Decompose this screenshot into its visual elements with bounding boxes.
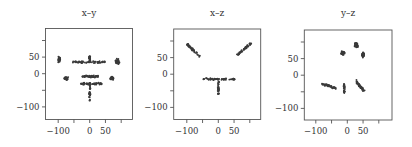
data-point (362, 57, 364, 59)
data-points (57, 55, 120, 101)
data-point (217, 84, 219, 86)
data-point (363, 54, 365, 56)
data-point (80, 83, 82, 85)
data-point (360, 87, 362, 89)
data-point (343, 85, 345, 87)
y-tick-label: −100 (16, 102, 39, 112)
data-point (329, 85, 331, 87)
data-point (214, 78, 216, 80)
data-point (354, 43, 356, 45)
y-tick-label: −100 (275, 103, 298, 113)
data-point (187, 45, 189, 47)
data-point (192, 48, 194, 50)
data-point (198, 56, 200, 58)
data-point (221, 78, 223, 80)
data-point (342, 54, 344, 56)
data-point (82, 75, 84, 77)
panel-title: x–y (82, 8, 98, 18)
data-point (89, 59, 91, 61)
data-point (243, 49, 245, 51)
data-points (321, 42, 365, 94)
plot-frame (46, 29, 133, 120)
data-point (343, 89, 345, 91)
data-point (57, 61, 59, 63)
data-point (229, 78, 231, 80)
data-point (217, 93, 219, 95)
data-point (333, 86, 335, 88)
data-point (237, 53, 239, 55)
y-tick-label: 50 (29, 52, 40, 62)
data-point (101, 61, 103, 63)
y-tick-label: −100 (144, 102, 167, 112)
data-point (89, 57, 91, 59)
data-point (85, 62, 87, 64)
plot-frame (174, 29, 261, 120)
data-point (357, 46, 359, 48)
data-point (356, 79, 358, 81)
data-point (240, 51, 242, 53)
data-point (332, 87, 334, 89)
data-point (109, 77, 111, 79)
x-tick-label: 0 (216, 126, 221, 136)
figure: x–y−100050−100050 x–z−100050−100050 y–z−… (0, 0, 412, 147)
x-tick-label: −100 (175, 126, 198, 136)
data-point (211, 78, 213, 80)
x-tick-label: 0 (87, 126, 92, 136)
data-point (359, 85, 361, 87)
data-point (225, 79, 227, 81)
data-point (86, 83, 88, 85)
y-tick-label: 0 (34, 69, 39, 79)
data-point (89, 96, 91, 98)
data-point (89, 88, 91, 90)
data-point (64, 77, 66, 79)
data-point (103, 61, 105, 63)
x-tick-label: 50 (229, 126, 240, 136)
data-point (82, 83, 84, 85)
data-point (89, 99, 91, 101)
panel-title: x–z (210, 8, 225, 18)
panel-x-y: x–y−100050−100050 (16, 8, 132, 136)
plot-frame (304, 30, 392, 120)
data-points (186, 42, 252, 95)
data-point (94, 62, 96, 64)
data-point (77, 62, 79, 64)
data-point (115, 60, 117, 62)
x-tick-label: 0 (345, 126, 350, 136)
data-point (335, 87, 337, 89)
data-point (249, 44, 251, 46)
panel-title: y–z (340, 8, 356, 18)
data-point (100, 83, 102, 85)
y-tick-label: 50 (157, 53, 168, 63)
data-point (72, 62, 74, 64)
data-point (89, 85, 91, 87)
data-point (357, 84, 359, 86)
data-point (247, 45, 249, 47)
data-point (233, 79, 235, 81)
data-point (205, 77, 207, 79)
panel-y-z: y–z−100050−100050 (275, 8, 392, 136)
data-point (203, 78, 205, 80)
data-point (117, 60, 119, 62)
data-point (58, 59, 60, 61)
x-tick-label: −100 (47, 126, 70, 136)
data-point (217, 79, 219, 81)
data-point (218, 81, 220, 83)
data-point (217, 87, 219, 89)
data-point (195, 52, 197, 54)
data-point (89, 83, 91, 85)
x-tick-label: 50 (100, 126, 111, 136)
y-tick-label: 0 (293, 70, 298, 80)
data-point (355, 45, 357, 47)
data-point (92, 76, 94, 78)
data-point (91, 61, 93, 63)
data-point (356, 43, 358, 45)
data-point (99, 60, 101, 62)
data-point (324, 84, 326, 86)
x-tick-label: 50 (358, 126, 369, 136)
data-point (92, 83, 94, 85)
x-tick-label: −100 (304, 126, 327, 136)
data-point (189, 46, 191, 48)
data-point (89, 91, 91, 93)
y-tick-label: 0 (162, 69, 167, 79)
data-point (322, 83, 324, 85)
